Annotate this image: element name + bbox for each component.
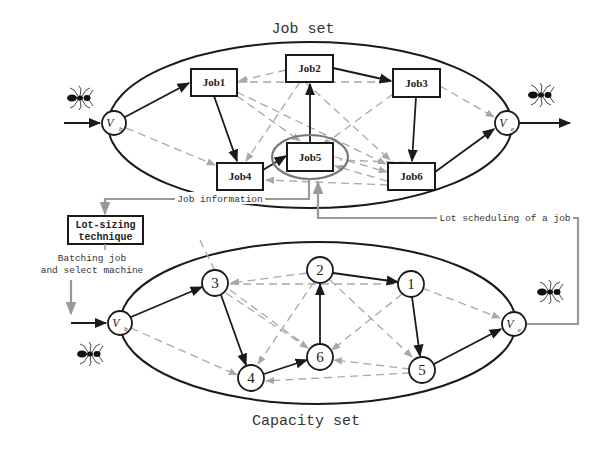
job-set-end-node: V e — [495, 111, 519, 135]
ant-icon-bottom-left — [77, 342, 103, 366]
svg-text:Job6: Job6 — [400, 170, 423, 182]
capacity-node-5: 5 — [409, 357, 435, 383]
capacity-node-6: 6 — [307, 344, 333, 370]
svg-text:b: b — [119, 125, 123, 133]
ant-icon-bottom-right — [537, 280, 563, 304]
svg-text:Lot-sizing: Lot-sizing — [75, 220, 135, 231]
svg-text:Job3: Job3 — [405, 77, 428, 89]
ant-icon-top-left — [67, 86, 93, 110]
svg-text:b: b — [124, 325, 128, 333]
job-node-job4: Job4 — [217, 163, 263, 190]
job-set-title: Job set — [271, 21, 334, 38]
capacity-set-title: Capacity set — [252, 413, 360, 430]
connectors: Job information Lot-sizing technique Bat… — [41, 179, 578, 324]
capacity-set-end-node: V e — [502, 312, 526, 336]
capacity-node-4: 4 — [238, 365, 264, 391]
ant-icon-top-right — [528, 83, 554, 107]
job-node-job5: Job5 — [287, 143, 333, 171]
capacity-set-graph: Capacity set — [77, 240, 563, 430]
job-node-job1: Job1 — [191, 69, 237, 96]
aco-lot-scheduling-diagram: Job set — [0, 0, 606, 455]
capacity-node-1: 1 — [398, 271, 424, 297]
capacity-node-2: 2 — [307, 257, 333, 283]
svg-text:technique: technique — [78, 232, 132, 243]
svg-text:6: 6 — [316, 349, 324, 365]
svg-text:3: 3 — [211, 275, 219, 291]
batching-label-line1: Batching job — [58, 253, 127, 264]
svg-text:Job2: Job2 — [298, 62, 321, 74]
job-node-job2: Job2 — [286, 55, 333, 82]
lot-sizing-box: Lot-sizing technique — [68, 216, 143, 244]
lot-scheduling-label: Lot scheduling of a job — [439, 213, 570, 224]
job-node-job6: Job6 — [388, 163, 435, 190]
svg-text:4: 4 — [247, 370, 255, 386]
batching-label-line2: and select machine — [41, 265, 144, 276]
svg-text:5: 5 — [418, 362, 426, 378]
job-set-graph: Job set — [64, 21, 570, 208]
svg-text:2: 2 — [316, 262, 324, 278]
svg-text:Job4: Job4 — [229, 170, 252, 182]
job-information-label: Job information — [177, 194, 263, 205]
svg-text:e: e — [518, 326, 521, 334]
svg-text:Job5: Job5 — [299, 151, 322, 163]
svg-text:Job1: Job1 — [203, 76, 226, 88]
job-node-job3: Job3 — [393, 69, 440, 97]
job-set-start-node: V b — [102, 111, 126, 135]
capacity-node-3: 3 — [202, 270, 228, 296]
svg-text:1: 1 — [407, 276, 415, 292]
svg-text:e: e — [511, 125, 514, 133]
capacity-set-start-node: V b — [108, 311, 132, 335]
